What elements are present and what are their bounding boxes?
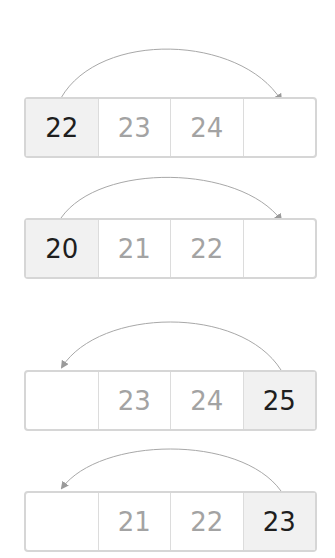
arc-arrow-right-2 <box>61 177 281 220</box>
cell: 24 <box>171 99 244 156</box>
number-strip-3: 23 24 25 <box>24 370 317 431</box>
arc-arrow-left-3 <box>62 322 281 370</box>
cell: 23 <box>99 372 172 429</box>
cell-start: 20 <box>26 220 99 277</box>
arc-arrow-left-4 <box>62 449 281 491</box>
number-strip-4: 21 22 23 <box>24 491 317 552</box>
cell-blank <box>244 99 316 156</box>
cell-start: 25 <box>244 372 316 429</box>
number-strip-2: 20 21 22 <box>24 218 317 279</box>
cell-blank <box>26 493 99 550</box>
cell-start: 23 <box>244 493 316 550</box>
cell: 21 <box>99 493 172 550</box>
cell: 21 <box>99 220 172 277</box>
cell-start: 22 <box>26 99 99 156</box>
cell-blank <box>244 220 316 277</box>
cell: 23 <box>99 99 172 156</box>
cell-blank <box>26 372 99 429</box>
cell: 22 <box>171 220 244 277</box>
arc-arrow-right-1 <box>61 49 281 100</box>
arrow-layer <box>0 0 335 558</box>
number-strip-1: 22 23 24 <box>24 97 317 158</box>
cell: 22 <box>171 493 244 550</box>
cell: 24 <box>171 372 244 429</box>
